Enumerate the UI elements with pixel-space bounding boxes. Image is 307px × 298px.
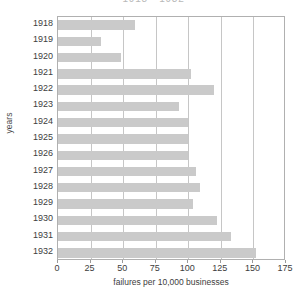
y-tick-label: 1919 <box>13 34 53 44</box>
bar-row <box>58 196 284 212</box>
bar[interactable] <box>58 248 256 257</box>
bar[interactable] <box>58 85 214 94</box>
y-tick-label: 1918 <box>13 18 53 28</box>
y-tick-label: 1921 <box>13 67 53 77</box>
bar-chart-figure: 1918 - 1932 years 1918191919201921192219… <box>0 0 307 298</box>
bar[interactable] <box>58 37 101 46</box>
bar[interactable] <box>58 118 188 127</box>
bar-row <box>58 17 284 33</box>
bar[interactable] <box>58 151 188 160</box>
chart-title: 1918 - 1932 <box>0 0 307 2</box>
bar[interactable] <box>58 183 200 192</box>
bar[interactable] <box>58 53 121 62</box>
bar[interactable] <box>58 69 191 78</box>
x-tick-mark <box>90 260 91 263</box>
bar[interactable] <box>58 216 217 225</box>
plot-area <box>57 16 285 260</box>
bar-row <box>58 98 284 114</box>
bar-row <box>58 212 284 228</box>
x-tick-mark <box>155 260 156 263</box>
x-axis-tick-labels: 0255075100125150175 <box>57 263 285 276</box>
x-tick-mark <box>122 260 123 263</box>
x-tick-mark <box>57 260 58 263</box>
y-tick-label: 1930 <box>13 213 53 223</box>
bar-row <box>58 131 284 147</box>
x-tick-mark <box>220 260 221 263</box>
y-tick-label: 1924 <box>13 116 53 126</box>
x-tick-label: 175 <box>265 263 305 273</box>
x-tick-mark <box>252 260 253 263</box>
bar[interactable] <box>58 167 196 176</box>
x-axis-title: failures per 10,000 businesses <box>57 277 285 287</box>
bar-row <box>58 33 284 49</box>
x-tick-mark <box>285 260 286 263</box>
bar[interactable] <box>58 199 193 208</box>
bar-row <box>58 147 284 163</box>
x-tick-mark <box>187 260 188 263</box>
bar-row <box>58 82 284 98</box>
bar-row <box>58 163 284 179</box>
bar-row <box>58 180 284 196</box>
y-tick-label: 1925 <box>13 132 53 142</box>
bar-row <box>58 50 284 66</box>
bar-row <box>58 228 284 244</box>
y-tick-label: 1932 <box>13 246 53 256</box>
bar-row <box>58 115 284 131</box>
y-tick-label: 1929 <box>13 197 53 207</box>
bar-row <box>58 66 284 82</box>
bar-row <box>58 245 284 261</box>
y-tick-label: 1920 <box>13 51 53 61</box>
bar[interactable] <box>58 232 231 241</box>
y-tick-label: 1928 <box>13 181 53 191</box>
y-tick-label: 1923 <box>13 99 53 109</box>
bar[interactable] <box>58 20 135 29</box>
y-tick-label: 1922 <box>13 83 53 93</box>
bar[interactable] <box>58 134 188 143</box>
y-tick-label: 1931 <box>13 230 53 240</box>
y-tick-label: 1926 <box>13 148 53 158</box>
bar[interactable] <box>58 102 179 111</box>
y-tick-label: 1927 <box>13 165 53 175</box>
y-axis-tick-labels: 1918191919201921192219231924192519261927… <box>9 16 53 260</box>
